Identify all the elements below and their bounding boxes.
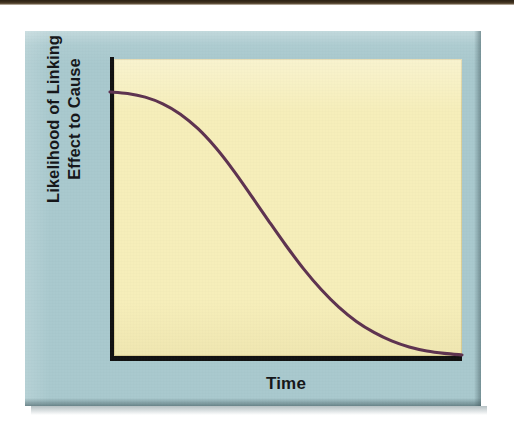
decay-curve-path <box>110 92 462 355</box>
x-axis-label: Time <box>110 374 462 394</box>
y-axis-label: Likelihood of Linking Effect to Cause <box>40 12 88 227</box>
y-axis-label-line-1: Likelihood of Linking <box>45 35 62 203</box>
panel-bevel-bottom <box>25 398 481 406</box>
panel-bevel-right <box>474 31 481 406</box>
curve-plot <box>110 57 462 361</box>
panel-drop-shadow <box>31 406 487 415</box>
plot-area <box>110 57 462 361</box>
scan-edge-strip <box>0 0 514 5</box>
y-axis-label-line-2: Effect to Cause <box>65 58 82 180</box>
figure-root: Likelihood of Linking Effect to Cause Ti… <box>0 0 514 444</box>
